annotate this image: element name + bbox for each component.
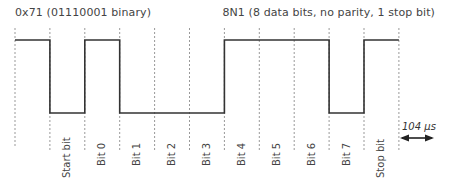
bit-label: Bit 4 [236, 143, 247, 166]
bit-label: Bit 1 [131, 143, 142, 166]
serial-waveform [15, 40, 399, 113]
uart-timing-diagram: Start bitBit 0Bit 1Bit 2Bit 3Bit 4Bit 5B… [0, 0, 449, 188]
bit-label: Bit 7 [341, 143, 352, 166]
double-arrow-icon [400, 135, 434, 142]
bit-label: Bit 3 [201, 143, 212, 166]
bit-label: Bit 5 [271, 143, 282, 166]
bit-duration-label: 104 µs [402, 121, 436, 132]
bit-label: Start bit [61, 137, 72, 178]
bit-duration-indicator: 104 µs [400, 121, 436, 142]
bit-label: Stop bit [375, 139, 386, 178]
bit-boundary-gridlines [15, 28, 399, 150]
bit-label: Bit 2 [166, 143, 177, 166]
bit-labels: Start bitBit 0Bit 1Bit 2Bit 3Bit 4Bit 5B… [61, 137, 386, 178]
bit-label: Bit 0 [96, 143, 107, 166]
bit-label: Bit 6 [306, 143, 317, 166]
